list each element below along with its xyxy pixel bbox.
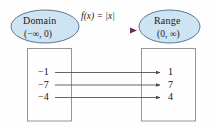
domain-value-1: −1 (38, 67, 49, 77)
domain-interval: (−∞, 0) (24, 30, 52, 40)
range-value-1: 1 (168, 67, 173, 77)
range-title: Range (154, 16, 181, 26)
domain-value-2: −7 (38, 80, 49, 90)
function-mapping-figure: Domain (−∞, 0) Range (0, ∞) f(x) = |x| −… (0, 0, 211, 129)
range-value-3: 4 (168, 92, 173, 102)
function-label: f(x) = |x| (81, 12, 115, 22)
domain-value-3: −4 (38, 92, 49, 102)
domain-title: Domain (23, 16, 56, 26)
range-interval: (0, ∞) (157, 30, 180, 40)
range-value-2: 7 (168, 80, 173, 90)
